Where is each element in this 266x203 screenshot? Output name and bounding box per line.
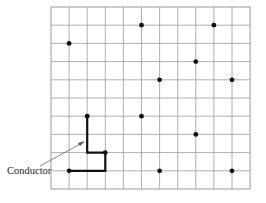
pin-dot xyxy=(85,114,90,119)
pin-dot xyxy=(230,77,235,82)
pin-dot xyxy=(67,41,72,46)
pin-dot xyxy=(212,23,217,28)
pin-dot xyxy=(230,168,235,173)
pin-dot xyxy=(193,132,198,137)
conductor-arrowhead-icon xyxy=(78,141,85,146)
pin-dot xyxy=(67,168,72,173)
pin-dot xyxy=(157,77,162,82)
pin-dot xyxy=(139,114,144,119)
grid-lines xyxy=(51,7,250,189)
pin-dot xyxy=(157,168,162,173)
routing-grid-diagram: Conductor xyxy=(0,0,266,203)
pin-dot xyxy=(193,59,198,64)
pin-dot xyxy=(103,150,108,155)
conductor-arrow-line xyxy=(40,143,82,166)
pin-dot xyxy=(139,23,144,28)
conductor-label: Conductor xyxy=(7,165,52,176)
